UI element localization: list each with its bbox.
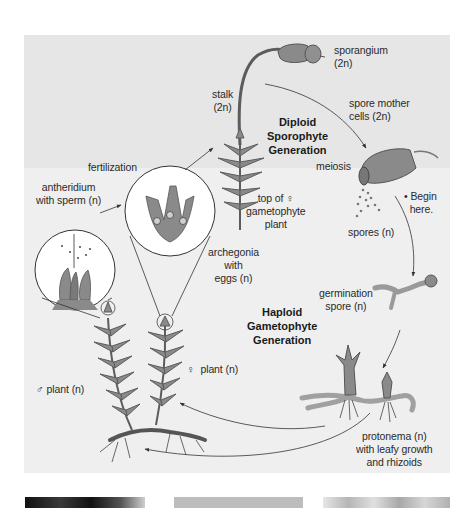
label-top-of-female-gametophyte: top of ♀ gametophyte plant [246, 192, 306, 231]
label-spore-mother-cells: spore mother cells (2n) [349, 97, 410, 123]
label-antheridium: antheridium with sperm (n) [36, 181, 101, 207]
label-male-plant: ♂ plant (n) [36, 383, 84, 396]
label-fertilization: fertilization [88, 161, 137, 174]
female-plant-icon [148, 314, 184, 425]
label-sporangium: sporangium (2n) [334, 44, 388, 70]
label-haploid-gametophyte-generation: Haploid Gametophyte Generation [247, 305, 317, 347]
label-protonema: protonema (n) with leafy growth and rhiz… [356, 430, 433, 469]
male-plant-icon [94, 301, 140, 430]
label-spores: spores (n) [348, 226, 394, 239]
germinating-spore-icon [375, 275, 437, 308]
label-stalk: stalk (2n) [212, 88, 233, 114]
archegonia-magnified-icon [125, 166, 215, 316]
protonema-icon [302, 345, 413, 422]
label-begin-here: • Begin here. [404, 190, 437, 216]
moss-photo-gray [174, 497, 303, 508]
moss-photo-light [323, 497, 450, 508]
rhizome-roots-icon [100, 430, 205, 462]
label-archegonia: archegonia with eggs (n) [208, 246, 259, 285]
label-diploid-sporophyte-generation: Diploid Sporophyte Generation [267, 115, 328, 157]
antheridium-magnified-icon [35, 230, 115, 318]
label-germination-spore: germination spore (n) [319, 287, 373, 313]
label-meiosis: meiosis [316, 160, 351, 173]
moss-photo-dark [25, 497, 145, 508]
label-female-plant: ♀ plant (n) [187, 363, 238, 376]
